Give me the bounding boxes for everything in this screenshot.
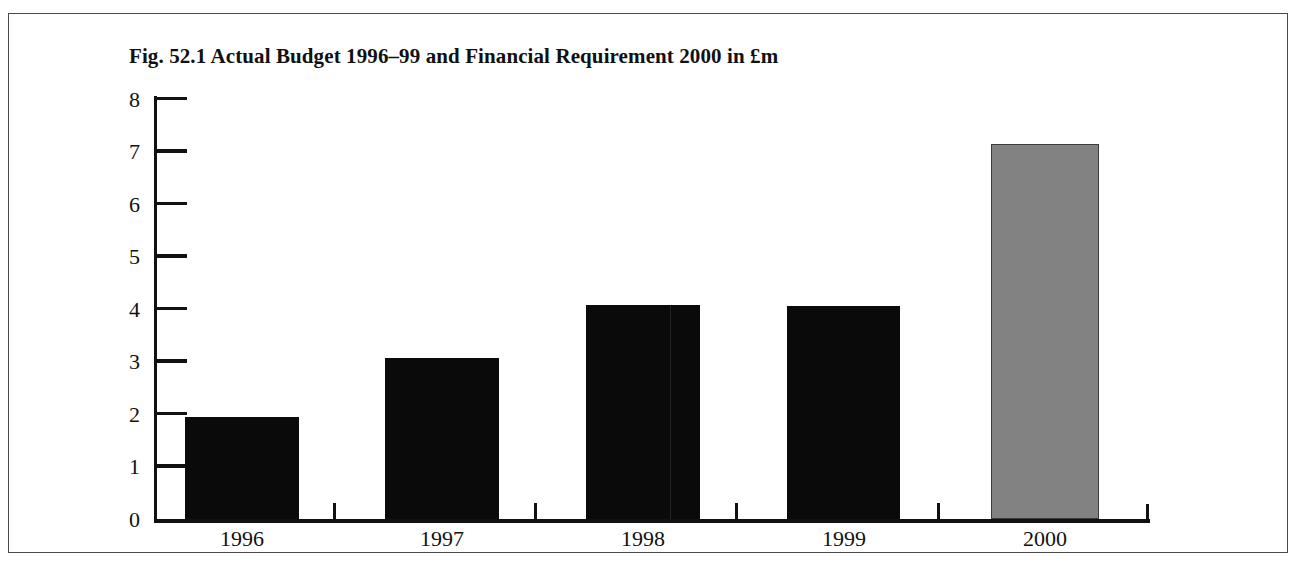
y-tick-5 xyxy=(157,254,187,258)
x-axis-label-1997: 1997 xyxy=(372,526,512,552)
figure-container: Fig. 52.1 Actual Budget 1996–99 and Fina… xyxy=(0,0,1294,563)
scan-artifact-line xyxy=(670,305,671,519)
bar-chart-plot-area: 8 7 6 5 4 3 2 1 0 1996 1997 1998 1 xyxy=(9,14,1294,563)
bar-1998[interactable] xyxy=(586,305,700,519)
y-tick-8 xyxy=(157,97,187,101)
y-axis-label-8: 8 xyxy=(100,87,140,113)
y-axis-label-0: 0 xyxy=(100,507,140,533)
y-axis-label-7: 7 xyxy=(100,139,140,165)
bar-1996[interactable] xyxy=(185,417,299,519)
y-tick-2 xyxy=(157,412,187,416)
y-tick-4 xyxy=(157,307,187,311)
bar-1997[interactable] xyxy=(385,358,499,519)
y-axis-label-1: 1 xyxy=(100,454,140,480)
y-axis-label-3: 3 xyxy=(100,349,140,375)
y-axis-label-6: 6 xyxy=(100,192,140,218)
figure-frame: Fig. 52.1 Actual Budget 1996–99 and Fina… xyxy=(8,13,1288,553)
y-axis-label-4: 4 xyxy=(100,297,140,323)
x-tick-1 xyxy=(333,503,336,520)
x-axis-label-1999: 1999 xyxy=(774,526,914,552)
bar-2000[interactable] xyxy=(991,144,1099,519)
y-axis-label-2: 2 xyxy=(100,402,140,428)
y-axis-label-5: 5 xyxy=(100,244,140,270)
x-axis-line xyxy=(154,519,1150,523)
x-tick-3 xyxy=(735,503,738,520)
x-axis-label-1998: 1998 xyxy=(573,526,713,552)
x-axis-label-2000: 2000 xyxy=(975,526,1115,552)
y-tick-1 xyxy=(157,464,187,468)
y-tick-6 xyxy=(157,202,187,206)
x-axis-end-tick xyxy=(1146,504,1149,520)
x-tick-4 xyxy=(937,503,940,520)
x-axis-label-1996: 1996 xyxy=(172,526,312,552)
y-tick-3 xyxy=(157,359,187,363)
y-tick-7 xyxy=(157,149,187,153)
x-tick-2 xyxy=(534,503,537,520)
bar-1999[interactable] xyxy=(787,306,900,519)
